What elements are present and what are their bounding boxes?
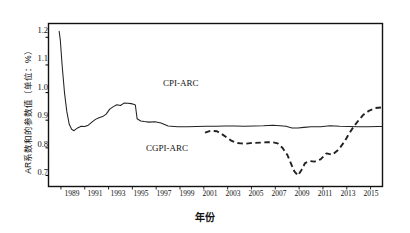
series-line-cgpi-arc [205,107,382,175]
series-line-cpi-arc [59,31,382,130]
y-axis-tick-0.7: 0.7 [18,168,48,177]
x-axis-tick-2015: 2015 [356,190,386,198]
y-axis-tick-1.0: 1.0 [18,83,48,92]
plot-frame [49,24,383,187]
series-label-cgpi-arc: CGPI-ARC [146,143,188,153]
y-axis-tick-1.2: 1.2 [18,26,48,35]
y-axis-tick-0.9: 0.9 [18,111,48,120]
y-axis-tick-1.1: 1.1 [18,54,48,63]
x-axis-label: 年份 [0,209,410,224]
axis-ticks [46,37,371,189]
chart-figure: AR系数和的参数值（单位：%） 1.2 1.1 1.0 0.9 0.8 0.7 … [0,0,410,233]
y-axis-tick-0.8: 0.8 [18,140,48,149]
series-label-cpi-arc: CPI-ARC [163,78,199,88]
plot-area [0,0,410,233]
